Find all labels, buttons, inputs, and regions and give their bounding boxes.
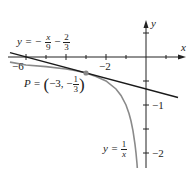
tangent-line-label: y = − x 9 − 2 3 — [17, 33, 70, 52]
curve-label-prefix: y = — [103, 142, 121, 154]
point-coords: −3, − — [49, 77, 72, 89]
frac-denominator: 3 — [63, 43, 70, 52]
y-tick-label-neg2: −2 — [152, 148, 164, 159]
tangent-frac-2-3: 2 3 — [63, 33, 70, 52]
x-axis-label: x — [181, 42, 186, 53]
curve-frac-1-x: 1 x — [121, 140, 128, 159]
curve-label: y = 1 x — [103, 140, 127, 159]
y-axis — [143, 20, 149, 168]
close-paren: ) — [79, 75, 85, 94]
x-tick-label-neg2: −2 — [99, 61, 111, 72]
point-label-prefix: P = — [24, 77, 43, 89]
frac-denominator: x — [121, 150, 128, 159]
graph-figure: x y −6 −2 −1 −2 y = − x 9 − 2 3 P = (−3,… — [0, 0, 190, 170]
x-tick-label-neg6: −6 — [12, 61, 24, 72]
y-axis-label: y — [151, 18, 156, 29]
tangent-label-mid: − — [54, 35, 63, 47]
y-tick-label-neg1: −1 — [152, 100, 164, 111]
point-p-label: P = (−3, −13) — [24, 75, 85, 94]
tangent-label-prefix: y = − — [17, 35, 42, 47]
frac-denominator: 9 — [45, 43, 52, 52]
x-axis-arrow-icon — [178, 55, 186, 60]
y-axis-arrow-icon — [144, 20, 149, 28]
tangent-frac-x-9: x 9 — [45, 33, 52, 52]
